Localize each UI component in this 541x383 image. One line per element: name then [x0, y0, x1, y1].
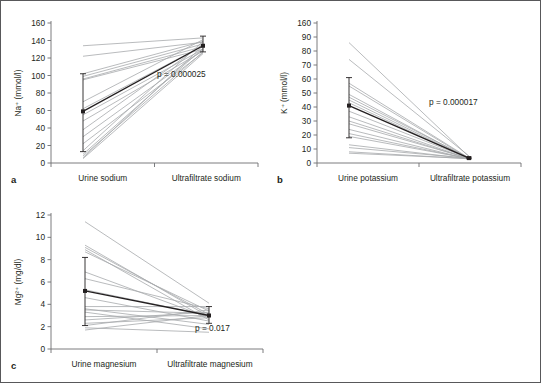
panel-c-plot: 024681012Mg²⁺ (mg/dl)Urine magnesiumUltr…: [5, 197, 295, 382]
figure-panel-container: 020406080100120140160Na⁺ (mmol/l)Urine s…: [0, 0, 541, 383]
y-tick-label: 4: [40, 299, 45, 309]
x-category-label-right: Ultrafiltrate magnesium: [167, 359, 252, 369]
y-tick-label: 6: [40, 277, 45, 287]
mean-marker: [201, 44, 205, 48]
subject-line: [83, 49, 203, 115]
subject-line: [85, 328, 209, 332]
panel-letter: a: [11, 174, 17, 185]
y-tick-label: 50: [302, 88, 312, 98]
y-tick-label: 160: [31, 18, 45, 28]
y-tick-label: 140: [31, 36, 45, 46]
panel-letter: c: [11, 360, 16, 371]
y-tick-label: 30: [302, 116, 312, 126]
y-tick-label: 8: [40, 255, 45, 265]
mean-line: [349, 106, 469, 159]
subject-line: [349, 111, 469, 158]
panel-a-plot: 020406080100120140160Na⁺ (mmol/l)Urine s…: [5, 5, 277, 195]
y-tick-label: 2: [40, 322, 45, 332]
panel-b-plot: 0102030405060708090160K⁺ (mmol/l)Urine p…: [269, 5, 538, 195]
panel-a: 020406080100120140160Na⁺ (mmol/l)Urine s…: [5, 5, 277, 195]
subject-line: [349, 59, 469, 156]
mean-marker: [347, 104, 351, 108]
y-tick-label: 60: [302, 74, 312, 84]
y-axis-title: Mg²⁺ (mg/dl): [13, 259, 23, 306]
y-tick-label: 90: [302, 32, 312, 42]
x-category-label-left: Urine potassium: [338, 173, 398, 183]
y-tick-label: 10: [302, 144, 312, 154]
y-tick-label: 120: [31, 53, 45, 63]
mean-marker: [81, 109, 85, 113]
panel-c: 024681012Mg²⁺ (mg/dl)Urine magnesiumUltr…: [5, 197, 295, 382]
y-tick-label: 60: [36, 106, 46, 116]
y-axis-title: K⁺ (mmol/l): [279, 72, 289, 114]
y-tick-label: 10: [36, 232, 46, 242]
subject-line: [83, 52, 203, 156]
y-tick-label: 20: [302, 130, 312, 140]
y-tick-label: 80: [36, 88, 46, 98]
subject-line: [83, 53, 203, 144]
y-tick-label: 40: [302, 102, 312, 112]
mean-marker: [83, 289, 87, 293]
p-value-annotation: p = 0.000017: [429, 97, 478, 107]
p-value-annotation: p = 0.017: [195, 323, 230, 333]
subject-line: [85, 252, 209, 311]
y-tick-label: 80: [302, 46, 312, 56]
panel-b: 0102030405060708090160K⁺ (mmol/l)Urine p…: [269, 5, 538, 195]
y-tick-label: 40: [36, 123, 46, 133]
mean-marker: [467, 156, 471, 160]
y-tick-label: 20: [36, 141, 46, 151]
y-tick-label: 70: [302, 60, 312, 70]
subject-line: [349, 153, 469, 158]
x-category-label-right: Ultrafiltrate potassium: [430, 173, 510, 183]
subject-line: [83, 51, 203, 121]
y-tick-label: 12: [36, 210, 46, 220]
y-tick-label: 100: [31, 71, 45, 81]
subject-line: [83, 44, 203, 130]
x-category-label-right: Ultrafiltrate sodium: [172, 173, 241, 183]
y-tick-label: 160: [297, 18, 311, 28]
x-category-label-left: Urine sodium: [78, 173, 127, 183]
y-tick-label: 0: [40, 344, 45, 354]
panel-letter: b: [277, 174, 283, 185]
subject-line: [85, 222, 209, 304]
x-category-label-left: Urine magnesium: [71, 359, 136, 369]
y-tick-label: 0: [40, 158, 45, 168]
y-axis-title: Na⁺ (mmol/l): [13, 69, 23, 116]
p-value-annotation: p = 0.000025: [157, 69, 206, 79]
mean-marker: [207, 314, 211, 318]
y-tick-label: 0: [306, 158, 311, 168]
